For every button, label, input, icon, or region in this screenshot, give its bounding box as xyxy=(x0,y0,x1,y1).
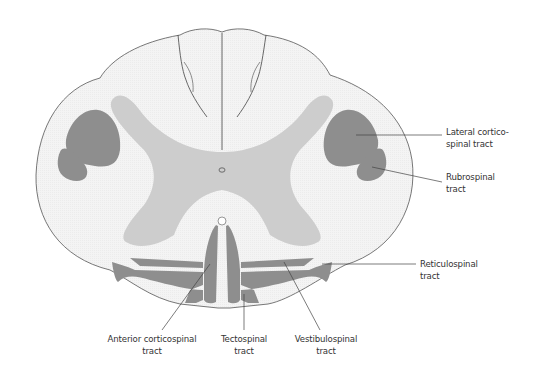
label-vestibulospinal-tract: Vestibulospinal tract xyxy=(290,333,362,357)
label-reticulospinal-tract: Reticulospinal tract xyxy=(420,258,478,282)
label-line-1: Lateral cortico- xyxy=(446,126,509,138)
label-line-1: Rubrospinal xyxy=(446,171,495,183)
label-tectospinal-tract: Tectospinal tract xyxy=(214,333,274,357)
label-line-1: Tectospinal xyxy=(214,333,274,345)
label-line-1: Anterior corticospinal xyxy=(100,333,204,345)
label-line-2: tract xyxy=(446,183,495,195)
label-line-2: tract xyxy=(420,270,478,282)
label-line-2: tract xyxy=(100,345,204,357)
anterior-median-fissure-top xyxy=(218,217,226,225)
label-line-2: tract xyxy=(290,345,362,357)
label-line-2: tract xyxy=(214,345,274,357)
label-rubrospinal-tract: Rubrospinal tract xyxy=(446,171,495,195)
label-line-2: spinal tract xyxy=(446,138,509,150)
label-lateral-corticospinal-tract: Lateral cortico- spinal tract xyxy=(446,126,509,150)
label-line-1: Vestibulospinal xyxy=(290,333,362,345)
label-anterior-corticospinal-tract: Anterior corticospinal tract xyxy=(100,333,204,357)
label-line-1: Reticulospinal xyxy=(420,258,478,270)
